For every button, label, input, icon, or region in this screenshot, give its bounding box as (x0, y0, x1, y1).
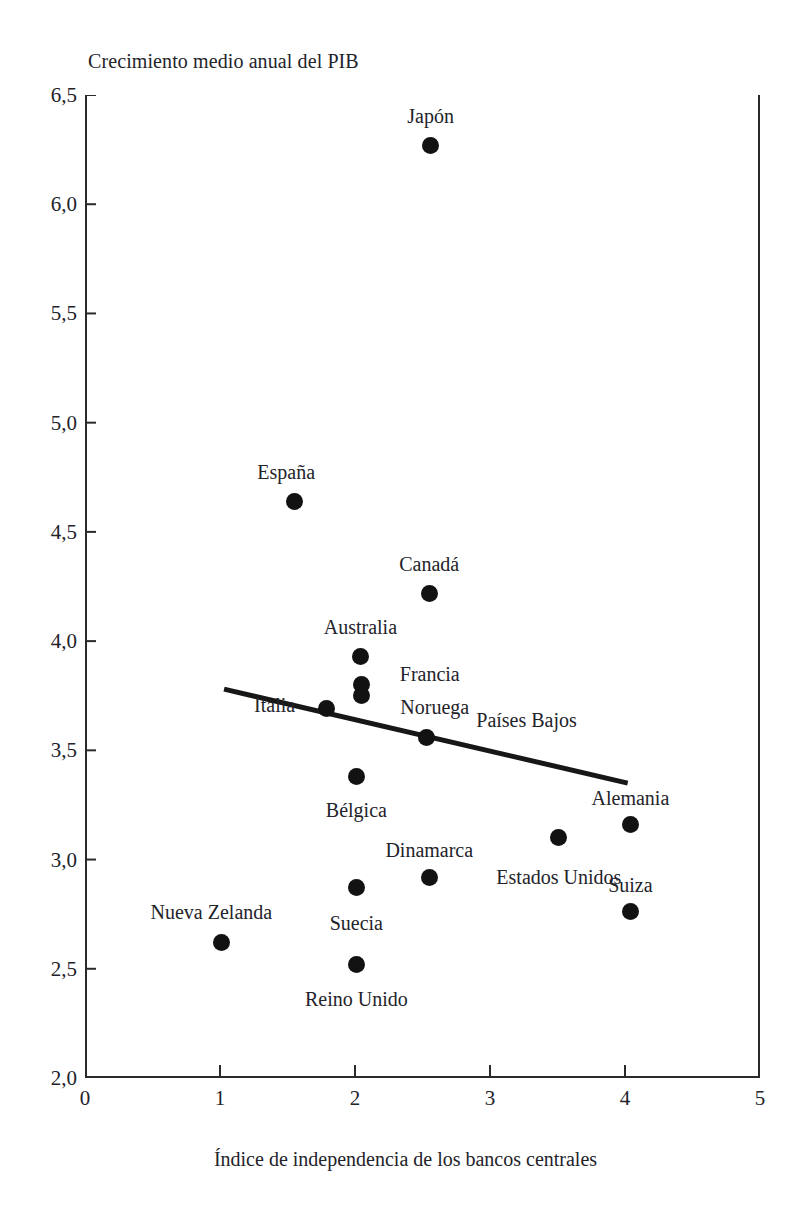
y-axis-tick-label: 3,0 (25, 847, 77, 872)
data-point[interactable] (622, 816, 639, 833)
y-axis-title: Crecimiento medio anual del PIB (88, 50, 359, 73)
data-point-label: Francia (400, 664, 460, 684)
y-axis-tick-label: 6,5 (25, 83, 77, 108)
x-axis-tick-label: 4 (595, 1086, 655, 1111)
data-point[interactable] (352, 648, 369, 665)
y-axis-tick-label: 5,5 (25, 301, 77, 326)
data-point-label: Suiza (608, 875, 652, 895)
data-point[interactable] (422, 137, 439, 154)
x-axis-tick-label: 2 (325, 1086, 385, 1111)
x-axis-tick-labels: 012345 (85, 1086, 760, 1116)
x-axis-tick-label: 3 (460, 1086, 520, 1111)
scatter-chart-figure: Crecimiento medio anual del PIB 2,02,53,… (0, 0, 811, 1224)
y-axis-tick-label: 3,5 (25, 738, 77, 763)
data-point[interactable] (348, 768, 365, 785)
data-point-label: Canadá (399, 554, 459, 574)
y-axis-tick-label: 4,0 (25, 629, 77, 654)
data-point[interactable] (421, 585, 438, 602)
data-point-label: Dinamarca (385, 840, 473, 860)
data-point-label: Suecia (330, 913, 383, 933)
y-axis-ticks (86, 95, 96, 1078)
data-point-label: Reino Unido (305, 989, 408, 1009)
data-point[interactable] (348, 956, 365, 973)
data-point[interactable] (213, 934, 230, 951)
data-point-label: Estados Unidos (496, 867, 621, 887)
x-axis-ticks (220, 1065, 625, 1077)
data-point-label: Países Bajos (476, 710, 577, 730)
data-point-label: Nueva Zelanda (151, 902, 273, 922)
y-axis-tick-label: 2,5 (25, 956, 77, 981)
y-axis-tick-label: 5,0 (25, 410, 77, 435)
x-axis-tick-label: 0 (55, 1086, 115, 1111)
y-axis-tick-label: 4,5 (25, 519, 77, 544)
x-axis-tick-label: 1 (190, 1086, 250, 1111)
data-point-label: Noruega (400, 697, 469, 717)
data-point-label: Japón (407, 106, 454, 126)
data-point[interactable] (421, 869, 438, 886)
data-point-label: Italia (254, 695, 295, 715)
x-axis-tick-label: 5 (730, 1086, 790, 1111)
data-point-label: Alemania (592, 788, 670, 808)
y-axis-tick-label: 6,0 (25, 192, 77, 217)
data-point-label: España (257, 462, 315, 482)
y-axis-tick-labels: 2,02,53,03,54,04,55,05,56,06,5 (22, 95, 77, 1078)
x-axis-title: Índice de independencia de los bancos ce… (0, 1148, 811, 1171)
data-point[interactable] (418, 729, 435, 746)
data-point[interactable] (286, 493, 303, 510)
data-point-label: Australia (324, 617, 397, 637)
data-point-label: Bélgica (326, 800, 387, 820)
